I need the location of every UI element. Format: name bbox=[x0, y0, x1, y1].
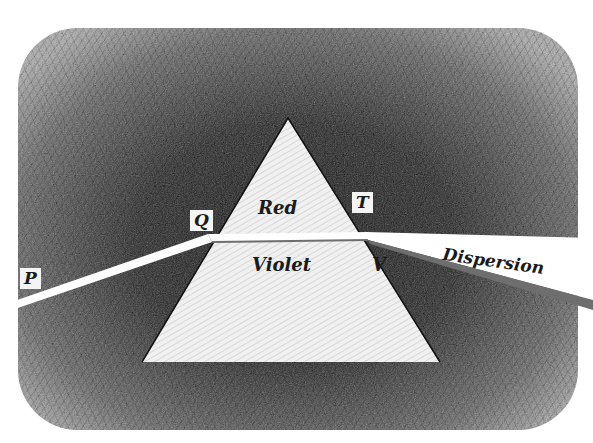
label-p: P bbox=[20, 268, 41, 289]
label-v: V bbox=[372, 256, 386, 274]
label-red: Red bbox=[258, 199, 297, 217]
label-q: Q bbox=[190, 210, 213, 231]
label-violet: Violet bbox=[252, 256, 311, 274]
label-t: T bbox=[352, 192, 373, 213]
prism-diagram bbox=[0, 0, 593, 443]
